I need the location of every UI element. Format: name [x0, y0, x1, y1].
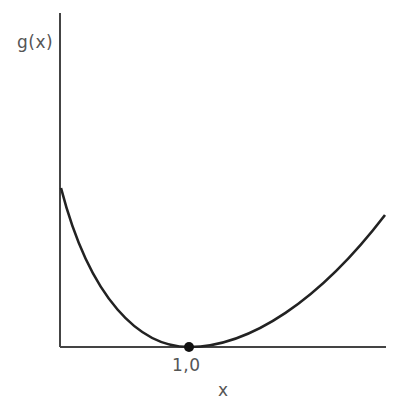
- x-axis-label: x: [218, 380, 229, 400]
- y-axis-label: g(x): [17, 32, 53, 52]
- minimum-point: [184, 342, 194, 352]
- plot-canvas: [0, 0, 418, 416]
- curve-g: [61, 188, 385, 347]
- point-label: 1,0: [172, 355, 201, 375]
